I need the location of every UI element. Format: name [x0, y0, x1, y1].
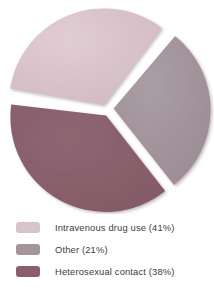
- legend-label-heterosexual-contact: Heterosexual contact (38%): [55, 266, 175, 277]
- legend-item[interactable]: Other (21%): [0, 238, 214, 260]
- pie-chart-figure: Intravenous drug use (41%) Other (21%) H…: [0, 0, 214, 293]
- legend-swatch-other: [16, 244, 40, 255]
- legend-label-intravenous-drug-use: Intravenous drug use (41%): [55, 222, 175, 233]
- pie-plot-area: [0, 0, 214, 214]
- legend-label-other: Other (21%): [55, 244, 108, 255]
- legend-item[interactable]: Heterosexual contact (38%): [0, 260, 214, 282]
- pie-svg: [0, 0, 214, 214]
- legend-swatch-intravenous-drug-use: [16, 222, 40, 233]
- legend-item[interactable]: Intravenous drug use (41%): [0, 216, 214, 238]
- chart-legend: Intravenous drug use (41%) Other (21%) H…: [0, 216, 214, 282]
- pie-slices-group: [10, 8, 211, 212]
- legend-swatch-heterosexual-contact: [16, 266, 40, 277]
